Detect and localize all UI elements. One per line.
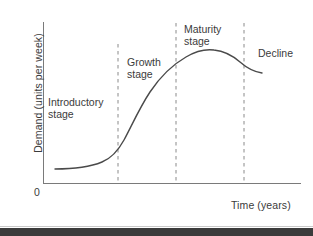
plot-area <box>0 0 313 236</box>
stage-label-growth: Growth stage <box>127 56 161 80</box>
stage-label-introductory: Introductory stage <box>48 96 103 120</box>
product-life-cycle-chart: Demand (units per week) Time (years) 0 I… <box>0 0 313 236</box>
stage-label-maturity: Maturity stage <box>184 23 221 47</box>
page-bottom-band <box>0 228 313 236</box>
page-band-hairline <box>0 226 313 227</box>
stage-label-decline: Decline <box>258 47 293 59</box>
